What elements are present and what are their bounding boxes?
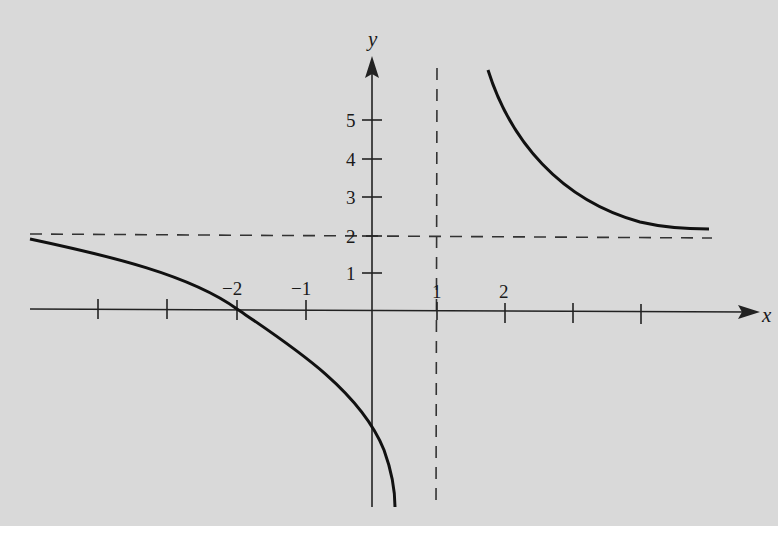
y-tick-label-2: 2: [346, 226, 356, 247]
y-axis-label: y: [366, 27, 378, 51]
y-tick-label-4: 4: [346, 149, 356, 170]
x-axis-label: x: [761, 303, 772, 327]
y-tick-label-3: 3: [346, 187, 356, 208]
y-tick-label-5: 5: [346, 110, 356, 131]
y-tick-label-1: 1: [346, 263, 356, 284]
x-tick-label-neg1: −1: [291, 278, 311, 299]
right-branch-curve: [488, 70, 709, 229]
x-tick-label-neg2: −2: [222, 278, 242, 299]
x-tick-label-1: 1: [432, 281, 442, 302]
function-graph: y x 5 4 3 2 1 −2 −1 1 2: [0, 0, 778, 546]
left-branch-curve: [30, 239, 395, 507]
x-tick-label-2: 2: [499, 281, 509, 302]
